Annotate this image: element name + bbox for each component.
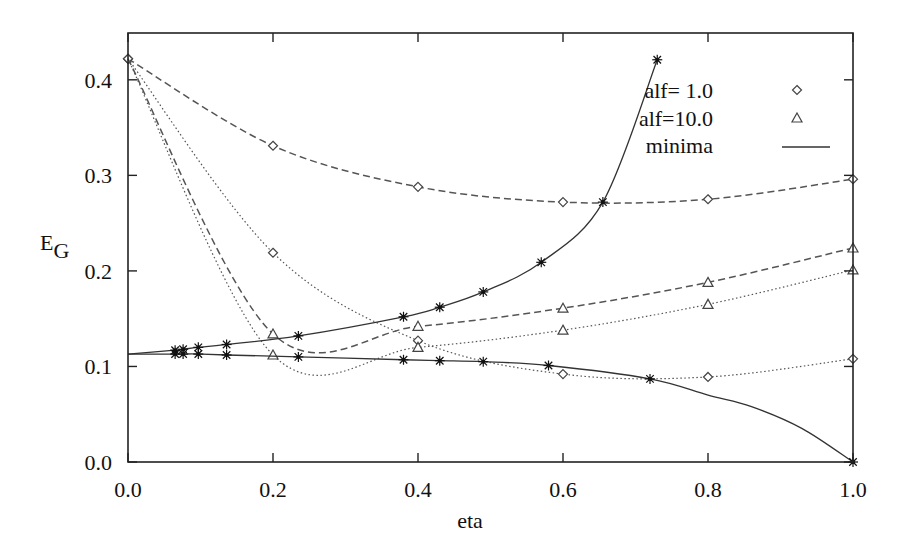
y-tick-label: 0.3 — [85, 163, 113, 188]
star-marker — [645, 374, 655, 384]
axes: 0.00.20.40.60.81.00.00.10.20.30.4 — [85, 33, 867, 502]
y-tick-label: 0.4 — [85, 68, 113, 93]
series-line — [128, 60, 657, 354]
triangle-marker — [792, 113, 802, 122]
x-tick-label: 0.4 — [404, 477, 432, 502]
diamond-marker — [704, 195, 713, 204]
series-alf-10-0-dotted- — [128, 59, 858, 376]
chart-canvas: 0.00.20.40.60.81.00.00.10.20.30.4 alf= 1… — [0, 0, 909, 555]
legend-label: alf= 1.0 — [644, 78, 713, 103]
star-marker — [435, 356, 445, 366]
y-tick-label: 0.0 — [85, 450, 113, 475]
legend: alf= 1.0alf=10.0minima — [639, 78, 830, 158]
star-marker — [435, 302, 445, 312]
star-marker — [399, 312, 409, 322]
star-marker — [222, 339, 232, 349]
star-marker — [222, 350, 232, 360]
diamond-marker — [559, 198, 568, 207]
star-marker — [536, 257, 546, 267]
series-minima-lower- — [128, 349, 858, 467]
x-tick-label: 1.0 — [839, 477, 867, 502]
star-marker — [544, 360, 554, 370]
triangle-marker — [558, 303, 568, 312]
x-tick-label: 0.8 — [694, 477, 722, 502]
series-line — [128, 354, 853, 462]
diamond-marker — [559, 370, 568, 379]
series-alf-1-0-dotted- — [124, 54, 858, 381]
series-line — [128, 59, 853, 376]
diamond-marker — [269, 248, 278, 257]
star-marker — [399, 355, 409, 365]
series-minima-upper- — [128, 55, 662, 355]
diamond-marker — [269, 141, 278, 150]
plot-frame — [128, 33, 853, 462]
x-tick-label: 0.6 — [549, 477, 577, 502]
triangle-marker — [268, 329, 278, 338]
triangle-marker — [703, 299, 713, 308]
series-line — [128, 59, 853, 203]
x-axis-title: eta — [457, 508, 483, 533]
series-alf-1-0-dashed- — [124, 54, 858, 206]
series-line — [128, 59, 853, 353]
plot-area — [124, 54, 859, 467]
star-marker — [193, 349, 203, 359]
y-axis-title: EG — [40, 230, 69, 263]
legend-label: minima — [646, 133, 713, 158]
x-tick-label: 0.2 — [259, 477, 287, 502]
x-tick-label: 0.0 — [114, 477, 142, 502]
star-marker — [293, 352, 303, 362]
star-marker — [293, 331, 303, 341]
star-marker — [598, 197, 608, 207]
series-line — [128, 59, 853, 379]
star-marker — [478, 287, 488, 297]
triangle-marker — [413, 321, 423, 330]
triangle-marker — [268, 350, 278, 359]
diamond-marker — [793, 86, 802, 95]
diamond-marker — [704, 372, 713, 381]
star-marker — [178, 349, 188, 359]
triangle-marker — [558, 325, 568, 334]
y-tick-label: 0.2 — [85, 259, 113, 284]
diamond-marker — [414, 182, 423, 191]
series-alf-10-0-dashed- — [128, 59, 858, 353]
star-marker — [652, 55, 662, 65]
star-marker — [478, 357, 488, 367]
legend-label: alf=10.0 — [639, 106, 713, 131]
y-tick-label: 0.1 — [85, 354, 113, 379]
